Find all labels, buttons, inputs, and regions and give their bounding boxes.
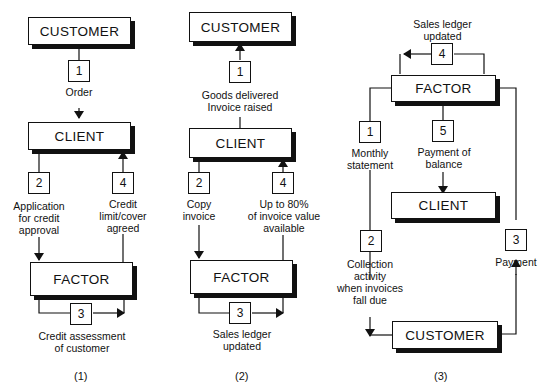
d2-step-1-label: Goods delivered Invoice raised — [195, 89, 285, 113]
d1-client-box: CLIENT — [28, 122, 131, 150]
d3-step-5: 5 — [432, 120, 454, 142]
d1-step-4-label: Credit limit/cover agreed — [93, 198, 153, 234]
d3-factor-box: FACTOR — [391, 75, 496, 102]
d3-step-5-label: Payment of balance — [408, 146, 480, 170]
d2-step-2: 2 — [188, 172, 210, 194]
d3-caption: (3) — [434, 370, 447, 382]
d2-factor-box: FACTOR — [190, 260, 293, 294]
d2-customer-box: CUSTOMER — [189, 12, 292, 42]
d1-step-3: 3 — [70, 303, 92, 325]
d3-customer-box: CUSTOMER — [392, 321, 498, 349]
d1-customer-box: CUSTOMER — [28, 17, 131, 45]
d2-step-2-label: Copy invoice — [179, 198, 219, 222]
d3-step-1-label: Monthly statement — [345, 147, 395, 171]
d1-step-3-label: Credit assessment of customer — [27, 330, 137, 354]
d3-step-3-label: Payment — [493, 256, 539, 268]
d3-step-3: 3 — [505, 229, 527, 251]
d2-client-box: CLIENT — [189, 128, 292, 158]
d3-client-box: CLIENT — [391, 192, 496, 219]
d2-step-3: 3 — [229, 302, 251, 324]
d2-step-1: 1 — [229, 61, 251, 83]
d2-step-4-label: Up to 80% of invoice value available — [242, 198, 326, 234]
d3-step-4: 4 — [431, 43, 453, 65]
d1-factor-box: FACTOR — [30, 262, 133, 296]
d1-step-1-label: Order — [59, 86, 99, 98]
d1-step-2: 2 — [28, 172, 50, 194]
d3-step-2-label: Collection activity when invoices fall d… — [335, 258, 405, 306]
d1-caption: (1) — [74, 370, 87, 382]
d3-step-1: 1 — [359, 121, 381, 143]
d1-step-1: 1 — [68, 60, 90, 82]
d3-step-4-label: Sales ledger updated — [400, 18, 485, 42]
d1-step-2-label: Application for credit approval — [4, 200, 74, 236]
d3-step-2: 2 — [360, 230, 382, 252]
d2-caption: (2) — [235, 370, 248, 382]
d2-step-3-label: Sales ledger updated — [205, 328, 279, 352]
d2-step-4: 4 — [272, 172, 294, 194]
d1-step-4: 4 — [112, 172, 134, 194]
